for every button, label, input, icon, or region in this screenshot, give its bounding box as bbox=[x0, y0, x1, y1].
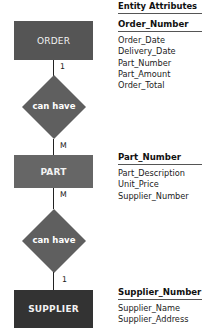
attribute-key-part: Part_Number bbox=[118, 152, 202, 165]
entity-order: ORDER bbox=[14, 21, 93, 60]
attribute-item: Supplier_Name bbox=[118, 303, 202, 314]
entity-supplier: SUPPLIER bbox=[14, 290, 93, 328]
attribute-item: Part_Amount bbox=[118, 69, 202, 80]
attribute-item: Order_Date bbox=[118, 35, 202, 46]
connector-rel1-part bbox=[53, 139, 54, 155]
attribute-key-supplier: Supplier_Number bbox=[118, 287, 202, 300]
relationship-diamond-2: can have bbox=[22, 209, 86, 273]
attributes-part: Part_Number Part_Description Unit_Price … bbox=[118, 152, 202, 202]
connector-part-rel2 bbox=[53, 188, 54, 209]
attribute-item: Unit_Price bbox=[118, 179, 202, 190]
relationship-diamond-1: can have bbox=[22, 75, 86, 139]
entity-attributes-title: Entity Attributes bbox=[118, 1, 202, 14]
relationship-label-1: can have bbox=[22, 101, 86, 111]
cardinality-order: 1 bbox=[60, 62, 65, 71]
attributes-order: Order_Number Order_Date Delivery_Date Pa… bbox=[118, 19, 202, 91]
attribute-item: Order_Total bbox=[118, 80, 202, 91]
cardinality-part-bottom: M bbox=[60, 190, 67, 199]
connector-order-rel1 bbox=[53, 60, 54, 76]
relationship-label-2: can have bbox=[22, 235, 86, 245]
cardinality-part-top: M bbox=[60, 141, 67, 150]
attribute-item: Delivery_Date bbox=[118, 46, 202, 57]
attribute-item: Supplier_Number bbox=[118, 191, 202, 202]
cardinality-supplier: 1 bbox=[62, 275, 67, 284]
attribute-item: Part_Description bbox=[118, 168, 202, 179]
entity-part: PART bbox=[14, 155, 93, 188]
attribute-item: Supplier_Address bbox=[118, 314, 202, 325]
connector-rel2-supplier bbox=[53, 272, 54, 290]
attributes-supplier: Supplier_Number Supplier_Name Supplier_A… bbox=[118, 287, 202, 326]
attribute-item: Part_Number bbox=[118, 58, 202, 69]
attribute-key-order: Order_Number bbox=[118, 19, 202, 32]
